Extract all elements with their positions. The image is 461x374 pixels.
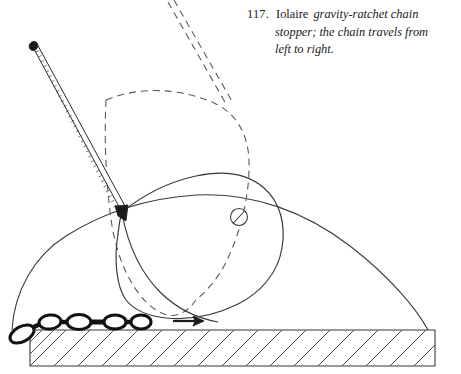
handle-pawl-junction (115, 205, 128, 221)
chain-link (38, 314, 61, 330)
ghost-handle-edge-b (174, 0, 233, 103)
chain-link (67, 315, 91, 330)
ghost-handle-edge-a (168, 2, 226, 104)
pivot-pin (231, 209, 248, 226)
figure-page: 117.Iolairegravity-ratchet chain stopper… (0, 0, 461, 374)
deck-outline (30, 330, 435, 366)
raised-position-outline (105, 0, 249, 316)
caption-text-3: left to right. (275, 42, 334, 56)
figure-number: 117. (247, 7, 269, 21)
figure-subject: Iolaire (276, 7, 308, 21)
stopper-base (12, 195, 428, 330)
figure-caption: 117.Iolairegravity-ratchet chain stopper… (247, 6, 459, 59)
lever-handle (28, 40, 128, 221)
pawl-heel-crease (122, 214, 218, 322)
caption-line-1: 117.Iolairegravity-ratchet chain (247, 6, 459, 24)
chain-link (131, 315, 151, 329)
handle-rod-outline (32, 42, 126, 210)
gravity-ratchet-pawl (116, 173, 283, 322)
caption-text-1: gravity-ratchet chain (313, 7, 418, 21)
chain-link (104, 315, 126, 329)
base-arch-outline (12, 195, 428, 330)
deck-section (30, 330, 435, 366)
caption-line-3: left to right. (247, 41, 459, 59)
caption-line-2: stopper; the chain travels from (247, 24, 459, 42)
caption-text-2: stopper; the chain travels from (275, 25, 428, 39)
